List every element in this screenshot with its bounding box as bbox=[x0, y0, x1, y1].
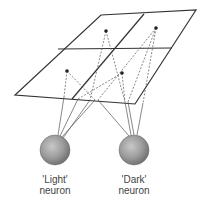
light-neuron-sphere bbox=[40, 135, 70, 165]
dark-neuron-label-line1: 'Dark' bbox=[104, 174, 164, 185]
light-neuron-label-line1: 'Light' bbox=[25, 174, 85, 185]
light-neuron-label-line2: neuron bbox=[25, 185, 85, 196]
dot-top-right bbox=[154, 26, 158, 30]
dot-bottom-right bbox=[120, 71, 124, 75]
light-neuron-label: 'Light' neuron bbox=[25, 174, 85, 196]
dark-neuron-label: 'Dark' neuron bbox=[104, 174, 164, 196]
dot-top-left bbox=[104, 29, 108, 33]
receptive-field-diagram bbox=[0, 0, 203, 203]
dark-neuron-label-line2: neuron bbox=[104, 185, 164, 196]
stimulus-dots bbox=[65, 26, 158, 75]
image-plane bbox=[15, 10, 196, 104]
dot-bottom-left bbox=[65, 69, 69, 73]
dark-neuron-sphere bbox=[119, 135, 149, 165]
